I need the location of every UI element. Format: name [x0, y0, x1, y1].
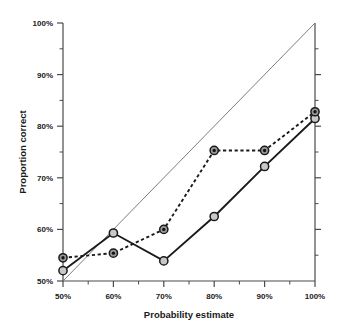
- x-tick-label: 100%: [305, 292, 325, 301]
- x-tick-label: 70%: [156, 292, 172, 301]
- x-tick-label: 50%: [55, 292, 71, 301]
- y-tick-label: 90%: [37, 71, 53, 80]
- y-tick-label: 80%: [37, 122, 53, 131]
- x-axis-title: Probability estimate: [144, 309, 234, 320]
- y-tick-label: 50%: [37, 277, 53, 286]
- x-tick-label: 90%: [257, 292, 273, 301]
- y-tick-label: 70%: [37, 174, 53, 183]
- y-axis-title: Proportion correct: [17, 109, 28, 193]
- y-tick-label: 60%: [37, 225, 53, 234]
- chart-figure: 100% 90% 80% 70% 60% 50% 50% 60% 70% 80%…: [0, 0, 346, 330]
- y-tick-label: 100%: [33, 19, 53, 28]
- x-tick-label: 80%: [206, 292, 222, 301]
- x-tick-label: 60%: [105, 292, 121, 301]
- calibration-line-chart: 100% 90% 80% 70% 60% 50% 50% 60% 70% 80%…: [0, 0, 346, 330]
